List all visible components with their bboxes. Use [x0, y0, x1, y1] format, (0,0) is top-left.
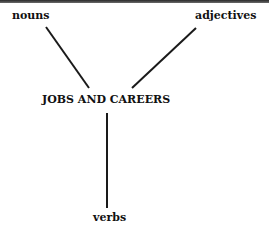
- branch-label-verbs: verbs: [93, 212, 126, 224]
- connector-nouns: [46, 27, 89, 88]
- branch-label-adjectives: adjectives: [195, 10, 256, 22]
- connector-lines: [0, 0, 269, 233]
- connector-adjectives: [132, 28, 196, 88]
- branch-label-nouns: nouns: [12, 10, 50, 22]
- center-topic: JOBS AND CAREERS: [42, 94, 170, 106]
